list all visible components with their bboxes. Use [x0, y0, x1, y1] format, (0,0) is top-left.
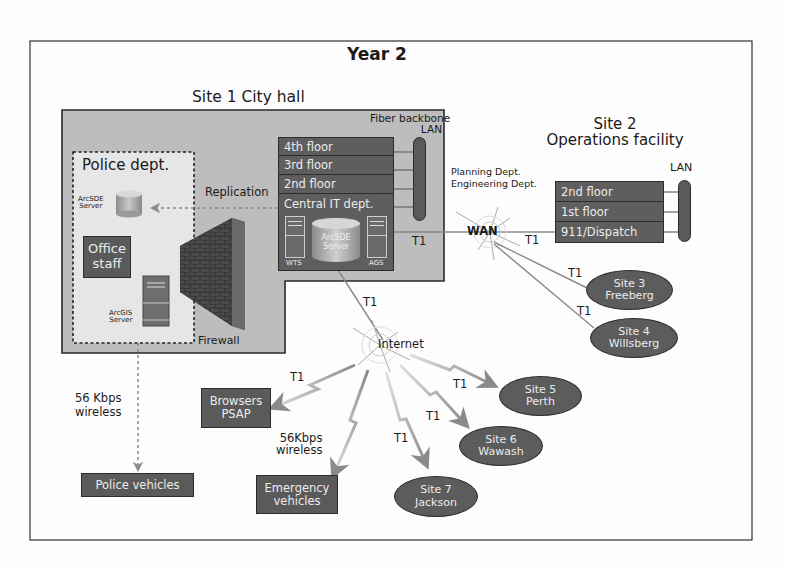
police-dept-title: Police dept.: [82, 158, 169, 174]
site-5-node[interactable]: Site 5 Perth: [499, 376, 582, 416]
diagram-title: Year 2: [347, 46, 407, 64]
t1-label-site5: T1: [453, 378, 467, 390]
ags-server-icon: [367, 216, 387, 258]
police-vehicles-box[interactable]: Police vehicles: [81, 473, 194, 497]
wts-server-icon: [285, 216, 305, 258]
site1-title: Site 1 City hall: [192, 89, 305, 105]
emergency-vehicles-box[interactable]: Emergency vehicles: [256, 475, 338, 514]
police-arcsde-label: ArcSDE Server: [78, 196, 104, 211]
ags-label: AGS: [369, 260, 384, 267]
cityhall-lan-bus: [413, 137, 426, 221]
site-4-node[interactable]: Site 4 Willsberg: [590, 318, 678, 358]
police-arcsde-server-icon: [116, 191, 142, 218]
site2-lan-bus: [678, 180, 691, 242]
t1-label-site6: T1: [426, 410, 440, 422]
t1-label-cityhall-wan: T1: [412, 235, 426, 247]
site-6-node[interactable]: Site 6 Wawash: [459, 426, 543, 466]
t1-label-site7: T1: [394, 432, 408, 444]
t1-label-browsers: T1: [290, 371, 304, 383]
site2-title: Site 2 Operations facility: [530, 117, 700, 149]
site-3-node[interactable]: Site 3 Freeberg: [586, 270, 673, 310]
browsers-psap-box[interactable]: Browsers PSAP: [201, 388, 271, 428]
t1-label-site4: T1: [577, 305, 591, 317]
site2-floors-stack: 2nd floor 1st floor 911/Dispatch: [555, 181, 664, 243]
t1-label-site3: T1: [568, 267, 582, 279]
site2-depts-label: Planning Dept. Engineering Dept.: [451, 166, 537, 191]
arcgis-server-label: ArcGIS Server: [109, 310, 132, 325]
site-7-node[interactable]: Site 7 Jackson: [394, 476, 478, 517]
t1-label-wan-site2: T1: [525, 234, 539, 246]
central-arcsde-server-icon: ArcSDE Server: [312, 218, 360, 262]
fiber-backbone-label: Fiber backbone LAN: [370, 113, 442, 135]
wireless-right-label: 56Kbps wireless: [276, 432, 322, 456]
cityhall-floors-stack: 4th floor 3rd floor 2nd floor Central IT…: [278, 137, 394, 271]
site2-911-dispatch[interactable]: 911/Dispatch: [556, 222, 663, 242]
office-staff-box[interactable]: Office staff: [83, 236, 131, 278]
floor-2nd[interactable]: 2nd floor: [279, 175, 393, 194]
wireless-left-label: 56 Kbps wireless: [75, 392, 121, 420]
wan-label: WAN: [467, 225, 498, 237]
site2-floor-1st[interactable]: 1st floor: [556, 202, 663, 222]
wts-label: WTS: [286, 260, 302, 267]
internet-label: Internet: [378, 338, 424, 350]
firewall-label: Firewall: [198, 335, 239, 347]
replication-label: Replication: [205, 186, 269, 198]
central-it-dept[interactable]: Central IT dept.: [279, 194, 393, 213]
floor-4th[interactable]: 4th floor: [279, 138, 393, 156]
floor-3rd[interactable]: 3rd floor: [279, 156, 393, 175]
t1-label-cityhall-internet: T1: [363, 296, 377, 308]
arcgis-server-icon: [143, 276, 169, 326]
site2-lan-label: LAN: [670, 162, 692, 174]
site2-floor-2nd[interactable]: 2nd floor: [556, 182, 663, 202]
